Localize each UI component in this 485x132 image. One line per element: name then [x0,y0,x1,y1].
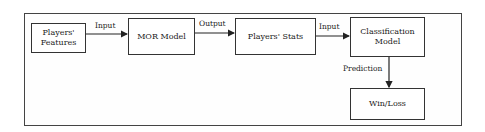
edge-label-stats-to-classification: Input [319,22,339,31]
node-players-stats-label: Players' Stats [248,32,303,42]
edge-label-classification-to-winloss: Prediction [343,64,382,73]
node-players-features: Players' Features [31,23,86,53]
node-classification-model: Classification Model [350,17,425,57]
node-classification-model-label: Classification Model [360,27,415,47]
node-mor-model-label: MOR Model [137,32,186,42]
edge-label-features-to-mor: Input [95,21,115,30]
node-win-loss-label: Win/Loss [369,99,406,109]
node-mor-model: MOR Model [128,18,195,55]
node-players-stats: Players' Stats [235,18,316,55]
node-players-features-label: Players' Features [41,28,77,48]
node-win-loss: Win/Loss [350,88,425,120]
edge-label-mor-to-stats: Output [199,19,226,28]
